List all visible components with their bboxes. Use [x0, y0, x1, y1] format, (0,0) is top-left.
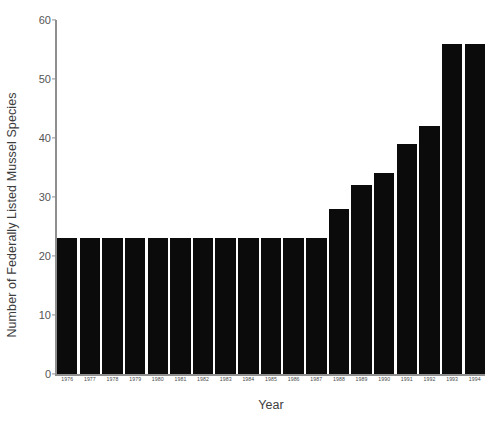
- bar-1988: [329, 209, 349, 374]
- bar-column: [329, 20, 349, 374]
- x-tick-label-1979: 1979: [125, 376, 145, 382]
- x-tick-label-1984: 1984: [238, 376, 258, 382]
- y-tick-mark-10: [52, 314, 56, 315]
- bar-column: [283, 20, 303, 374]
- bar-column: [238, 20, 258, 374]
- bar-1979: [125, 238, 145, 374]
- bar-1990: [374, 173, 394, 374]
- bar-1992: [419, 126, 439, 374]
- x-tick-label-1980: 1980: [148, 376, 168, 382]
- y-tick-mark-30: [52, 196, 56, 197]
- bar-column: [80, 20, 100, 374]
- bar-1989: [351, 185, 371, 374]
- bar-1987: [306, 238, 326, 374]
- bar-column: [419, 20, 439, 374]
- bar-1978: [102, 238, 122, 374]
- x-tick-label-1990: 1990: [374, 376, 394, 382]
- x-tick-label-1992: 1992: [419, 376, 439, 382]
- plot-area: 0102030405060: [57, 20, 485, 374]
- bar-column: [170, 20, 190, 374]
- y-tick-mark-40: [52, 137, 56, 138]
- y-tick-mark-20: [52, 255, 56, 256]
- x-tick-label-1987: 1987: [306, 376, 326, 382]
- x-tick-label-1991: 1991: [397, 376, 417, 382]
- bar-1993: [442, 44, 462, 374]
- x-tick-label-1994: 1994: [465, 376, 485, 382]
- x-tick-label-1985: 1985: [261, 376, 281, 382]
- x-tick-label-1977: 1977: [80, 376, 100, 382]
- bar-1986: [283, 238, 303, 374]
- bar-column: [102, 20, 122, 374]
- bar-column: [374, 20, 394, 374]
- bar-1977: [80, 238, 100, 374]
- bar-1991: [397, 144, 417, 374]
- bar-series: [57, 20, 485, 374]
- bar-column: [215, 20, 235, 374]
- x-tick-label-1993: 1993: [442, 376, 462, 382]
- bar-1981: [170, 238, 190, 374]
- bar-1982: [193, 238, 213, 374]
- bar-1984: [238, 238, 258, 374]
- bar-column: [125, 20, 145, 374]
- bar-1985: [261, 238, 281, 374]
- x-tick-label-1982: 1982: [193, 376, 213, 382]
- x-tick-label-1981: 1981: [170, 376, 190, 382]
- bar-column: [261, 20, 281, 374]
- y-tick-mark-60: [52, 19, 56, 20]
- bar-column: [351, 20, 371, 374]
- y-axis-title: Number of Federally Listed Mussel Specie…: [0, 0, 24, 430]
- bar-1980: [148, 238, 168, 374]
- bar-1994: [465, 44, 485, 374]
- bar-column: [148, 20, 168, 374]
- bar-column: [193, 20, 213, 374]
- y-tick-mark-50: [52, 78, 56, 79]
- bar-column: [57, 20, 77, 374]
- bar-column: [397, 20, 417, 374]
- bar-1976: [57, 238, 77, 374]
- bar-column: [465, 20, 485, 374]
- x-tick-label-1976: 1976: [57, 376, 77, 382]
- x-tick-label-1978: 1978: [102, 376, 122, 382]
- x-tick-label-1988: 1988: [329, 376, 349, 382]
- y-tick-mark-0: [52, 373, 56, 374]
- bar-1983: [215, 238, 235, 374]
- x-tick-label-1986: 1986: [283, 376, 303, 382]
- bar-column: [306, 20, 326, 374]
- x-tick-label-1983: 1983: [215, 376, 235, 382]
- x-tick-label-1989: 1989: [351, 376, 371, 382]
- x-axis-title: Year: [57, 398, 485, 412]
- bar-chart-figure: Number of Federally Listed Mussel Specie…: [0, 0, 490, 430]
- x-axis-tick-labels: 1976197719781979198019811982198319841985…: [57, 376, 485, 382]
- bar-column: [442, 20, 462, 374]
